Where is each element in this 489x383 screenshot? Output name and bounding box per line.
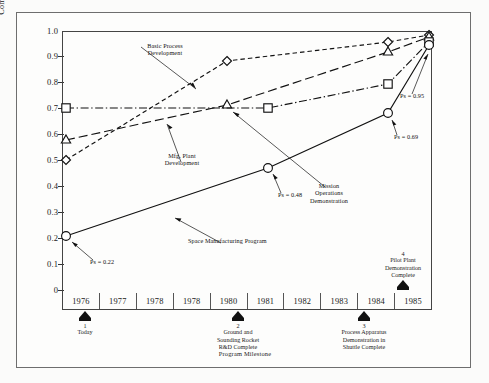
marker-diamond-1976 (62, 156, 71, 165)
x-cell-1977[interactable]: 1977 (100, 293, 137, 309)
annotation-basic-process-line2: Development (128, 49, 202, 56)
annotation-basic-process-line1: Basic Process (128, 42, 202, 49)
series-basic-process-development (62, 31, 434, 165)
annotation-basic-process-development: Basic Process Development (128, 42, 202, 57)
x-axis-caption: Program Milestone (190, 350, 300, 357)
annotation-mfg-plant-line1: Mfg. Plant (147, 152, 217, 159)
milestone-1-today: 1 Today (58, 311, 112, 337)
milestone-text-2-line1: Ground and (196, 329, 280, 336)
ps-label-0.48: Ps = 0.48 (278, 191, 302, 198)
milestone-text-2-line2: Sounding Rocket (196, 337, 280, 344)
y-tick-label-0.3: 0.3 (28, 207, 58, 217)
milestone-number-4: 4 (364, 250, 442, 257)
annotation-space-manufacturing-program: Space Manufacturing Program (188, 237, 298, 244)
marker-triangle-1984 (383, 47, 392, 55)
figure-root: Probability of Success Commercial Space … (0, 0, 489, 383)
series-mfg-plant-development (61, 32, 433, 143)
milestone-number-2: 2 (196, 322, 280, 329)
x-axis-row: 1976 1977 1978 1978 1980 1981 1982 1983 … (62, 293, 432, 310)
annotation-mission-ops-line2: Operations (296, 189, 362, 196)
y-tick-label-0.7: 0.7 (28, 103, 58, 113)
annotation-mission-ops-line3: Demonstration (296, 197, 362, 204)
milestone-2-ground-sounding-rocket: 2 Ground and Sounding Rocket R&D Complet… (196, 311, 280, 351)
marker-circle-1976 (62, 232, 71, 241)
leader-arrow-ps-095 (423, 54, 428, 60)
marker-square-1981 (264, 104, 272, 112)
milestone-text-4-line2: Demonstration (364, 265, 442, 272)
milestone-number-1: 1 (58, 322, 112, 329)
y-tick-label-0.2: 0.2 (28, 233, 58, 243)
marker-square-1976 (62, 104, 70, 112)
leader-arrow-ps-048 (273, 174, 278, 180)
milestone-flag-icon-4 (397, 280, 409, 287)
milestone-text-3-line3: Shuttle Complete (318, 344, 410, 351)
annotation-mission-operations-demonstration: Mission Operations Demonstration (296, 182, 362, 204)
marker-diamond-1984 (384, 38, 393, 47)
series-line-space-manufacturing-program (66, 45, 429, 236)
leader-arrow-ps-069 (392, 120, 396, 126)
milestone-text-3-line2: Demonstration in (318, 337, 410, 344)
milestone-text-4-line1: Pilot Plant (364, 257, 442, 264)
y-tick-label-0.8: 0.8 (28, 77, 58, 87)
marker-diamond-1980 (223, 57, 232, 66)
y-tick-label-0.1: 0.1 (28, 259, 58, 269)
milestone-flag-icon-2 (232, 311, 244, 318)
series-line-mfg-plant-development (66, 37, 429, 140)
y-tick-label-0: 0 (28, 285, 58, 295)
series-space-manufacturing-program (62, 41, 434, 241)
y-axis-title: Probability of Success Commercial Space … (0, 0, 7, 56)
y-tick-label-0.5: 0.5 (28, 155, 58, 165)
marker-triangle-1980 (222, 100, 231, 108)
milestone-flag-icon-3 (358, 311, 370, 318)
x-cell-1979[interactable]: 1978 (174, 293, 211, 309)
milestone-flag-icon-1 (79, 311, 91, 318)
milestone-3-process-apparatus: 3 Process Apparatus Demonstration in Shu… (318, 311, 410, 351)
milestone-4-pilot-plant: 4 Pilot Plant Demonstration Complete (364, 250, 442, 287)
x-cell-1984[interactable]: 1984 (358, 293, 395, 309)
annotation-leaders (72, 47, 428, 260)
y-tick-label-1.0: 1.0 (28, 26, 58, 36)
milestone-text-1-line1: Today (58, 329, 112, 336)
y-tick-label-0.4: 0.4 (28, 181, 58, 191)
marker-circle-1981 (264, 164, 273, 173)
x-cell-1978[interactable]: 1978 (137, 293, 174, 309)
marker-square-1984 (384, 80, 392, 88)
ps-label-0.22: Ps = 0.22 (90, 258, 114, 265)
marker-circle-1985 (425, 41, 434, 50)
x-cell-1985[interactable]: 1985 (395, 293, 431, 309)
y-tick-label-0.6: 0.6 (28, 129, 58, 139)
annotation-mfg-plant-line2: Development (147, 159, 217, 166)
milestone-number-3: 3 (318, 322, 410, 329)
ps-label-0.69: Ps = 0.69 (394, 133, 418, 140)
annotation-mfg-plant-development: Mfg. Plant Development (147, 152, 217, 167)
y-axis-title-line2: Commercial Space Manufacturing (0, 0, 7, 56)
ps-label-0.95: Ps = 0.95 (400, 92, 424, 99)
x-cell-1982[interactable]: 1982 (284, 293, 321, 309)
milestone-text-4-line3: Complete (364, 272, 442, 279)
x-cell-1980[interactable]: 1980 (211, 293, 248, 309)
marker-circle-1984 (384, 109, 393, 118)
x-cell-1976[interactable]: 1976 (63, 293, 100, 309)
leader-mission-ops (233, 112, 325, 187)
y-tick-label-0.9: 0.9 (28, 51, 58, 61)
milestone-text-3-line1: Process Apparatus (318, 329, 410, 336)
x-cell-1981[interactable]: 1981 (248, 293, 285, 309)
series-line-basic-process-development (66, 35, 429, 160)
x-cell-1983[interactable]: 1983 (321, 293, 358, 309)
series-mission-operations-demonstration (62, 38, 433, 112)
annotation-mission-ops-line1: Mission (296, 182, 362, 189)
